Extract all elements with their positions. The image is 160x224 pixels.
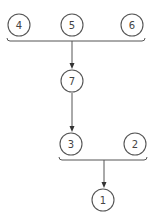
- node-label: 2: [132, 139, 138, 150]
- node-label: 4: [16, 20, 22, 31]
- arrowhead-icon: [102, 182, 107, 188]
- node-label: 1: [100, 195, 106, 206]
- bracket-top: [7, 38, 145, 41]
- bracket-bottom: [59, 157, 147, 160]
- arrowhead-icon: [70, 126, 75, 132]
- node-6: 6: [121, 14, 143, 36]
- node-label: 7: [69, 76, 75, 87]
- node-3: 3: [60, 133, 82, 155]
- node-5: 5: [61, 14, 83, 36]
- tree-diagram: 4 5 6 7 3 2 1: [0, 0, 160, 224]
- node-2: 2: [124, 133, 146, 155]
- node-7: 7: [61, 70, 83, 92]
- node-label: 5: [69, 20, 75, 31]
- node-label: 6: [129, 20, 135, 31]
- arrowhead-icon: [70, 63, 75, 69]
- node-1: 1: [92, 189, 114, 211]
- node-label: 3: [68, 139, 74, 150]
- node-4: 4: [8, 14, 30, 36]
